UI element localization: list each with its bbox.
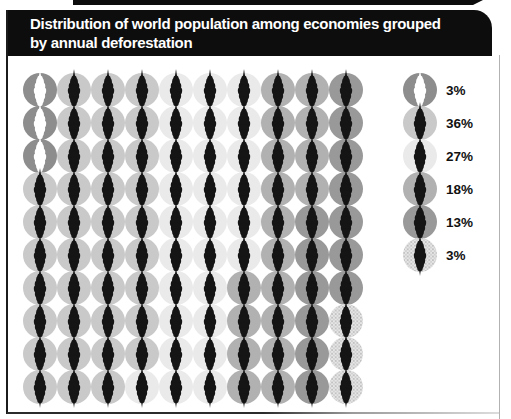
legend-percent-label: 27%: [446, 149, 473, 164]
legend-item: 36%: [403, 102, 473, 144]
pictogram-chart: 3%36%27%18%13%3%: [0, 0, 511, 419]
legend-item: 3%: [403, 69, 466, 111]
legend-percent-label: 13%: [446, 215, 473, 230]
legend-item: 13%: [403, 201, 473, 243]
chart-legend: 3%36%27%18%13%3%: [403, 69, 473, 276]
legend-percent-label: 18%: [446, 182, 473, 197]
scanned-chart-page: Distribution of world population among e…: [0, 0, 511, 419]
legend-percent-label: 3%: [446, 83, 466, 98]
legend-percent-label: 36%: [446, 116, 473, 131]
legend-item: 18%: [403, 168, 473, 210]
pictogram-grid: [23, 69, 363, 408]
legend-percent-label: 3%: [446, 248, 466, 263]
legend-item: 3%: [403, 234, 466, 276]
legend-item: 27%: [403, 135, 473, 177]
